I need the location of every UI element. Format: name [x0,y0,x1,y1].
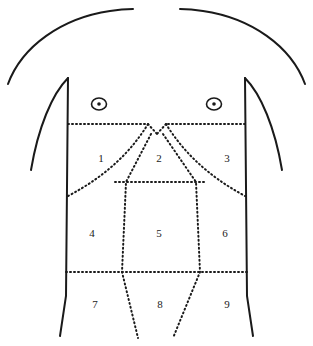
region-label-9: 9 [224,298,230,310]
midclavicular-plane-left [122,134,151,338]
region-label-8: 8 [157,298,163,310]
midclavicular-plane-right [163,134,200,338]
nipple-left-center-icon [97,102,101,106]
nipple-right-center-icon [212,102,216,106]
abdomen-illustration: 1 2 3 4 5 6 7 8 9 [0,0,313,346]
shoulder-left-outline [8,9,133,84]
region-label-1: 1 [98,152,104,164]
abdominal-regions-diagram: 1 2 3 4 5 6 7 8 9 [0,0,313,346]
region-label-3: 3 [224,152,230,164]
torso-left-outline [60,78,68,336]
region-label-7: 7 [92,298,98,310]
torso-right-outline [245,78,253,336]
costal-margin-right [166,124,245,196]
region-label-4: 4 [89,227,95,239]
region-label-2: 2 [156,152,162,164]
shoulder-right-outline [180,9,305,84]
region-label-6: 6 [222,227,228,239]
arm-left-outline [31,78,68,170]
region-label-5: 5 [156,227,162,239]
xiphoid-notch-right [157,124,166,134]
arm-right-outline [245,78,282,170]
costal-margin-left [68,124,148,196]
xiphoid-notch-left [148,124,157,134]
